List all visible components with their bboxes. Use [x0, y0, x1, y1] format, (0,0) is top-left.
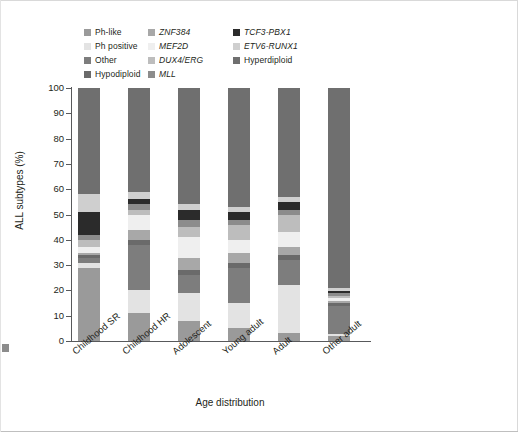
- legend-swatch-icon: [148, 57, 155, 64]
- stacked-bar-adult[interactable]: [278, 88, 300, 341]
- legend-item-label: DUX4/ERG: [159, 55, 203, 65]
- legend-swatch-icon: [148, 29, 155, 36]
- bar-segment-znf384: [178, 258, 200, 271]
- legend-swatch-icon: [84, 43, 91, 50]
- bar-segment-hyperdiploid: [228, 88, 250, 207]
- legend-item-label: MEF2D: [159, 41, 188, 51]
- x-axis-title: Age distribution: [140, 397, 320, 408]
- y-axis-tick-mark: [66, 113, 71, 114]
- legend-swatch-icon: [84, 57, 91, 64]
- y-axis-tick-label: 70: [34, 159, 64, 169]
- bar-segment-mef2d: [228, 240, 250, 253]
- y-axis-ticks: 0102030405060708090100: [30, 0, 64, 432]
- legend-swatch-icon: [233, 57, 240, 64]
- stacked-bar-adolescent[interactable]: [178, 88, 200, 341]
- legend-item-mef2d[interactable]: MEF2D: [148, 40, 233, 52]
- scan-artifact-mark: [2, 344, 9, 352]
- legend-column-3: TCF3-PBX1ETV6-RUNX1Hyperdiploid: [233, 26, 353, 82]
- y-axis-tick-mark: [66, 341, 71, 342]
- y-axis-tick-mark: [66, 88, 71, 89]
- y-axis-tick-label: 50: [34, 210, 64, 220]
- legend-item-label: Ph positive: [95, 41, 138, 51]
- legend-item-label: Hypodiploid: [95, 69, 141, 79]
- legend-item-label: TCF3-PBX1: [244, 27, 291, 37]
- legend-column-1: Ph-likePh positiveOtherHypodiploid: [84, 26, 148, 82]
- bar-segment-znf384: [278, 247, 300, 255]
- y-axis-tick-label: 10: [34, 311, 64, 321]
- bar-segment-dux4-erg: [228, 225, 250, 240]
- legend-item-dux4-erg[interactable]: DUX4/ERG: [148, 54, 233, 66]
- bar-segment-hyperdiploid: [178, 88, 200, 204]
- legend-item-hypodiploid[interactable]: Hypodiploid: [84, 68, 148, 80]
- page-border-top: [0, 0, 518, 1]
- y-axis-tick-label: 0: [34, 336, 64, 346]
- legend-swatch-icon: [233, 43, 240, 50]
- figure-canvas: Ph-likePh positiveOtherHypodiploidZNF384…: [0, 0, 518, 432]
- legend-item-ph-positive[interactable]: Ph positive: [84, 40, 148, 52]
- page-border-left: [0, 0, 1, 432]
- bar-segment-dux4-erg: [178, 227, 200, 237]
- y-axis-title: ALL subtypes (%): [14, 126, 25, 256]
- y-axis-tick-label: 60: [34, 184, 64, 194]
- legend-column-2: ZNF384MEF2DDUX4/ERGMLL: [148, 26, 233, 82]
- y-axis-tick-label: 40: [34, 235, 64, 245]
- legend-swatch-icon: [84, 71, 91, 78]
- bar-segment-ph-positive: [178, 293, 200, 321]
- bar-segment-hyperdiploid: [328, 88, 350, 288]
- legend-item-label: Other: [95, 55, 117, 65]
- bar-segment-mll: [178, 220, 200, 228]
- bar-segment-znf384: [228, 253, 250, 263]
- legend-item-ph-like[interactable]: Ph-like: [84, 26, 148, 38]
- bar-segment-mef2d: [128, 215, 150, 230]
- legend-swatch-icon: [233, 29, 240, 36]
- y-axis-tick-label: 80: [34, 134, 64, 144]
- bar-segment-mef2d: [278, 232, 300, 247]
- bar-segment-hyperdiploid: [78, 88, 100, 194]
- legend-item-mll[interactable]: MLL: [148, 68, 233, 80]
- y-axis-tick-mark: [66, 316, 71, 317]
- legend-item-other[interactable]: Other: [84, 54, 148, 66]
- bar-segment-tcf3-pbx1: [278, 202, 300, 210]
- bar-segment-tcf3-pbx1: [228, 212, 250, 220]
- chart-legend: Ph-likePh positiveOtherHypodiploidZNF384…: [84, 26, 384, 82]
- legend-item-label: MLL: [159, 69, 176, 79]
- bar-segment-dux4-erg: [78, 240, 100, 248]
- bar-segment-dux4-erg: [278, 215, 300, 233]
- bar-segment-tcf3-pbx1: [78, 212, 100, 235]
- legend-swatch-icon: [84, 29, 91, 36]
- bar-segment-hyperdiploid: [278, 88, 300, 197]
- bar-segment-hyperdiploid: [128, 88, 150, 192]
- stacked-bar-young-adult[interactable]: [228, 88, 250, 341]
- legend-item-label: ZNF384: [159, 27, 190, 37]
- legend-item-label: Hyperdiploid: [244, 55, 292, 65]
- legend-swatch-icon: [148, 71, 155, 78]
- y-axis-tick-label: 90: [34, 108, 64, 118]
- legend-item-etv6-runx1[interactable]: ETV6-RUNX1: [233, 40, 353, 52]
- bar-segment-ph-positive: [128, 290, 150, 313]
- legend-item-label: Ph-like: [95, 27, 122, 37]
- stacked-bar-other-adult[interactable]: [328, 88, 350, 341]
- stacked-bar-childhood-sr[interactable]: [78, 88, 100, 341]
- bar-segment-etv6-runx1: [128, 192, 150, 200]
- bar-segment-other: [178, 275, 200, 293]
- legend-item-tcf3-pbx1[interactable]: TCF3-PBX1: [233, 26, 353, 38]
- legend-swatch-icon: [148, 43, 155, 50]
- y-axis-tick-mark: [66, 139, 71, 140]
- y-axis-tick-mark: [66, 290, 71, 291]
- bar-segment-tcf3-pbx1: [178, 210, 200, 220]
- y-axis-tick-label: 100: [34, 83, 64, 93]
- stacked-bar-childhood-hr[interactable]: [128, 88, 150, 341]
- bar-segment-other: [278, 260, 300, 285]
- y-axis-tick-mark: [66, 189, 71, 190]
- bar-segment-ph-positive: [278, 285, 300, 333]
- y-axis-tick-mark: [66, 265, 71, 266]
- legend-item-label: ETV6-RUNX1: [244, 41, 298, 51]
- y-axis-tick-label: 30: [34, 260, 64, 270]
- y-axis-tick-mark: [66, 164, 71, 165]
- y-axis-tick-label: 20: [34, 285, 64, 295]
- legend-item-hyperdiploid[interactable]: Hyperdiploid: [233, 54, 353, 66]
- y-axis-tick-mark: [66, 215, 71, 216]
- bar-segment-etv6-runx1: [78, 194, 100, 212]
- plot-area: [72, 88, 369, 341]
- legend-item-znf384[interactable]: ZNF384: [148, 26, 233, 38]
